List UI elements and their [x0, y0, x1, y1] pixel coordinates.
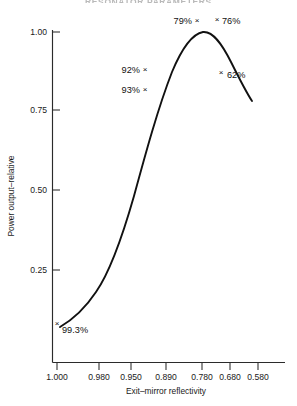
x-axis-title: Exit–mirror reflectivity [126, 386, 207, 396]
data-point-labels: × 99.3% 92% × 93% × 79% × × 76% × 62% [55, 15, 246, 335]
y-tick-marks [53, 32, 61, 270]
point-label-79: 79% [174, 16, 192, 26]
x-tick-label-1: 0.980 [88, 372, 110, 382]
point-label-76: 76% [222, 16, 240, 26]
marker-79-icon: × [195, 16, 200, 25]
point-label-62: 62% [227, 70, 245, 80]
y-tick-label-3: 0.25 [30, 265, 47, 275]
x-tick-label-3: 0.890 [155, 372, 177, 382]
marker-99.3-icon: × [55, 319, 60, 328]
y-axis-title: Power output–relative [6, 155, 16, 236]
x-tick-label-0: 1.000 [46, 372, 68, 382]
y-tick-label-2: 0.50 [30, 185, 47, 195]
marker-93-icon: × [143, 85, 148, 94]
y-tick-label-1: 0.75 [30, 105, 47, 115]
y-tick-labels: 1.00 0.75 0.50 0.25 [30, 27, 47, 275]
marker-92-icon: × [143, 65, 148, 74]
chart-figure: 1.00 0.75 0.50 0.25 1.000 0.980 0.950 0.… [0, 0, 297, 406]
y-tick-label-0: 1.00 [30, 27, 47, 37]
x-tick-label-2: 0.950 [120, 372, 142, 382]
x-tick-label-5: 0.680 [219, 372, 241, 382]
x-tick-labels: 1.000 0.980 0.950 0.890 0.780 0.680 0.58… [46, 372, 269, 382]
x-tick-label-6: 0.580 [247, 372, 269, 382]
point-label-92: 92% [122, 65, 140, 75]
point-label-99.3: 99.3% [62, 325, 88, 335]
point-label-93: 93% [122, 85, 140, 95]
marker-76-icon: × [215, 15, 220, 24]
x-tick-label-4: 0.780 [191, 372, 213, 382]
marker-62-icon: × [219, 68, 224, 77]
x-tick-marks [57, 363, 258, 371]
